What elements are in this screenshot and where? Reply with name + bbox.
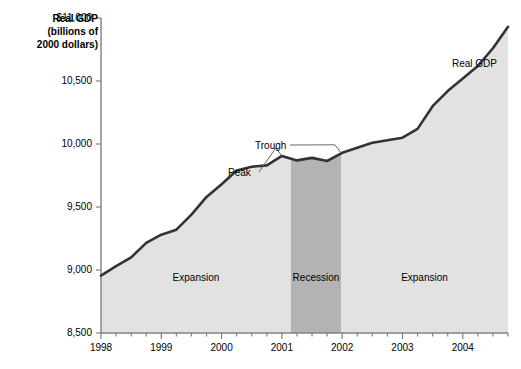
y-tick-label-9500: 9,500	[30, 201, 92, 212]
annotation-trough: Trough	[255, 140, 286, 151]
y-axis-title-line-2: (billions of	[10, 25, 98, 38]
annotation-real-gdp: Real GDP	[452, 58, 497, 69]
y-tick-label-9000: 9,000	[30, 264, 92, 275]
gdp-business-cycle-chart: Real GDP (billions of 2000 dollars) 8,50…	[0, 0, 521, 369]
region-label-expansion-0: Expansion	[151, 272, 241, 283]
chart-plot-area	[0, 0, 521, 369]
y-tick-label-10000: 10,000	[30, 138, 92, 149]
y-tick-label-11000: $11,000	[30, 12, 92, 23]
y-axis-title-line-3: 2000 dollars)	[10, 38, 98, 51]
x-tick-label-1998: 1998	[71, 342, 131, 353]
x-tick-label-2002: 2002	[312, 342, 372, 353]
x-tick-label-2003: 2003	[372, 342, 432, 353]
x-tick-label-2004: 2004	[433, 342, 493, 353]
annotation-peak: Peak	[228, 167, 251, 178]
x-tick-label-1999: 1999	[131, 342, 191, 353]
x-tick-label-2001: 2001	[252, 342, 312, 353]
y-tick-label-8500: 8,500	[30, 327, 92, 338]
region-label-recession-1: Recession	[271, 272, 361, 283]
x-tick-label-2000: 2000	[192, 342, 252, 353]
y-tick-label-10500: 10,500	[30, 75, 92, 86]
region-label-expansion-2: Expansion	[379, 272, 469, 283]
